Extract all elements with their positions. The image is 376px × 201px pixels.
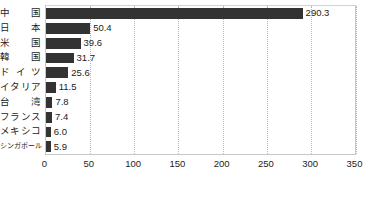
- category-label: 韓 国: [0, 50, 44, 65]
- bar-value-label: 7.4: [55, 110, 68, 124]
- bar-chart: 中 国日 本米 国韓 国ドイツイタリア台 湾フランスメキシコシンガポール 290…: [0, 0, 376, 201]
- bar: [46, 97, 53, 108]
- bar-value-label: 6.0: [54, 125, 67, 139]
- category-label: イタリア: [0, 80, 44, 95]
- category-label: 日 本: [0, 21, 44, 36]
- value-axis-tick: 0: [42, 158, 47, 170]
- bar-value-label: 50.4: [93, 21, 112, 35]
- bar-value-label: 5.9: [54, 140, 67, 154]
- bar-value-label: 290.3: [306, 6, 330, 20]
- category-label: 台 湾: [0, 95, 44, 110]
- value-axis-tick: 250: [258, 158, 274, 170]
- bar-value-label: 11.5: [59, 80, 77, 94]
- bar: [46, 112, 53, 123]
- bar-row: 39.6: [46, 37, 355, 52]
- bar-row: 7.8: [46, 96, 355, 111]
- bar-series: 290.350.439.631.725.611.57.87.46.05.9: [46, 7, 355, 154]
- value-axis-tick: 300: [302, 158, 318, 170]
- bar-value-label: 31.7: [77, 51, 96, 65]
- value-axis-tick: 100: [125, 158, 141, 170]
- category-label: シンガポール: [0, 139, 44, 154]
- bar-row: 5.9: [46, 140, 355, 155]
- bar-value-label: 25.6: [71, 66, 90, 80]
- bar: [46, 38, 81, 49]
- bar: [46, 67, 69, 78]
- bar-value-label: 39.6: [84, 36, 103, 50]
- bar: [46, 23, 91, 34]
- bar-row: 50.4: [46, 22, 355, 37]
- bar: [46, 82, 56, 93]
- bar: [46, 127, 51, 138]
- bar-value-label: 7.8: [55, 95, 68, 109]
- gridline: [356, 6, 357, 154]
- bar-row: 6.0: [46, 125, 355, 140]
- value-axis-tick: 150: [169, 158, 185, 170]
- value-axis-tick: 200: [214, 158, 230, 170]
- value-axis: 050100150200250300350: [45, 156, 356, 176]
- bar-row: 25.6: [46, 66, 355, 81]
- bar-row: 7.4: [46, 111, 355, 126]
- bar: [46, 141, 51, 152]
- category-label: ドイツ: [0, 65, 44, 80]
- plot-area: 290.350.439.631.725.611.57.87.46.05.9: [45, 5, 356, 155]
- category-label: メキシコ: [0, 124, 44, 139]
- bar-row: 11.5: [46, 81, 355, 96]
- bar: [46, 53, 74, 64]
- category-axis: 中 国日 本米 国韓 国ドイツイタリア台 湾フランスメキシコシンガポール: [0, 6, 44, 154]
- bar-row: 290.3: [46, 7, 355, 22]
- category-label: フランス: [0, 110, 44, 125]
- value-axis-tick: 350: [347, 158, 363, 170]
- category-label: 米 国: [0, 36, 44, 51]
- bar-row: 31.7: [46, 51, 355, 66]
- bar: [46, 8, 303, 19]
- value-axis-tick: 50: [83, 158, 94, 170]
- category-label: 中 国: [0, 6, 44, 21]
